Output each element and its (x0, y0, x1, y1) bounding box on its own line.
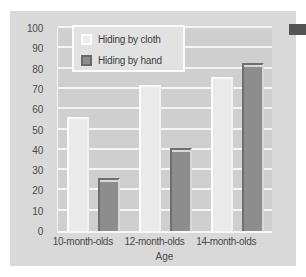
gridline (58, 168, 272, 170)
bar-hand (242, 63, 264, 231)
bar-hand (170, 148, 192, 231)
y-tick-label: 60 (10, 104, 43, 115)
chart-figure: 0102030405060708090100 Percent Successfu… (0, 0, 306, 277)
x-tick-label: 14-month-olds (190, 236, 262, 247)
legend-label-hand: Hiding by hand (98, 55, 162, 66)
y-tick-label: 30 (10, 165, 43, 176)
y-tick-label: 0 (10, 226, 43, 237)
x-tick-label: 10-month-olds (47, 236, 119, 247)
chart-panel: 0102030405060708090100 Percent Successfu… (10, 11, 296, 266)
y-tick-label: 70 (10, 83, 43, 94)
bar-cloth (67, 117, 89, 231)
gridline (58, 107, 272, 109)
y-tick-label: 20 (10, 185, 43, 196)
y-tick-label: 100 (10, 23, 43, 34)
gridline (58, 87, 272, 89)
y-tick-label: 40 (10, 144, 43, 155)
y-tick-label: 50 (10, 124, 43, 135)
edge-marker (289, 24, 306, 35)
legend-item-hand: Hiding by hand (81, 53, 162, 68)
gridline (58, 209, 272, 211)
y-tick-label: 90 (10, 43, 43, 54)
x-axis-title: Age (57, 251, 272, 262)
gridline (58, 148, 272, 150)
legend-swatch-hand-icon (81, 55, 92, 66)
chart-legend: Hiding by cloth Hiding by hand (72, 25, 185, 72)
bar-cloth (139, 85, 161, 231)
legend-label-cloth: Hiding by cloth (98, 34, 161, 45)
legend-swatch-cloth-icon (81, 34, 92, 45)
gridline (58, 128, 272, 130)
y-tick-label: 80 (10, 63, 43, 74)
bar-hand (98, 178, 120, 231)
legend-item-cloth: Hiding by cloth (81, 32, 161, 47)
x-axis-line (58, 231, 272, 233)
x-tick-label: 12-month-olds (119, 236, 191, 247)
gridline (58, 188, 272, 190)
bar-cloth (211, 77, 233, 231)
y-tick-label: 10 (10, 205, 43, 216)
